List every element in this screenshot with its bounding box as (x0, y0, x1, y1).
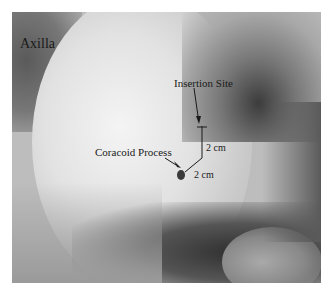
vertical-measure-label: 2 cm (206, 143, 226, 153)
insertion-site-label: Insertion Site (174, 78, 233, 89)
coracoid-process-label: Coracoid Process (95, 147, 172, 158)
horizontal-measure-label: 2 cm (194, 170, 214, 180)
insertion-arrow-line (194, 88, 198, 116)
insertion-arrow-head (196, 116, 201, 124)
axilla-label: Axilla (20, 37, 55, 51)
